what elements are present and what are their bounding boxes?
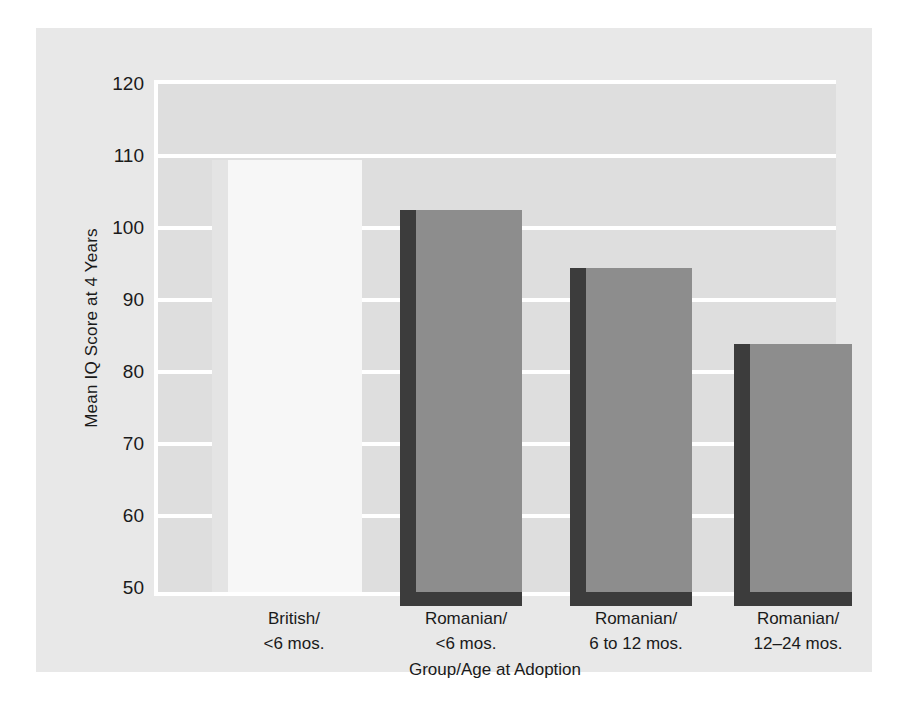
bar-side-face <box>212 160 228 592</box>
bar-side-face <box>400 210 416 592</box>
bar-base-shadow <box>400 592 522 606</box>
bar-british-under-6-months[interactable] <box>228 160 362 592</box>
x-axis-title: Group/Age at Adoption <box>154 660 836 680</box>
x-category-line-2: <6 mos. <box>194 631 394 656</box>
bar-front-face <box>750 344 852 592</box>
bar-base-shadow <box>734 592 852 606</box>
bar-front-face <box>586 268 692 592</box>
y-tick-label: 110 <box>84 145 144 167</box>
bar-romanian-12-to-24-months[interactable] <box>750 344 852 592</box>
x-category-label-british-under-6: British/ <6 mos. <box>194 606 394 656</box>
bar-front-face <box>228 160 362 592</box>
bar-side-face <box>734 344 750 592</box>
y-tick-label: 70 <box>84 433 144 455</box>
chart-panel: Mean IQ Score at 4 Years 120 110 100 90 … <box>36 28 872 672</box>
bar-romanian-6-to-12-months[interactable] <box>586 268 692 592</box>
y-tick-label: 120 <box>84 73 144 95</box>
y-tick-label: 60 <box>84 505 144 527</box>
gridline-110 <box>158 154 836 158</box>
bar-side-face <box>570 268 586 592</box>
bar-front-face <box>416 210 522 592</box>
y-axis-tick-labels: 120 110 100 90 80 70 60 50 <box>76 80 144 596</box>
x-axis-category-labels: British/ <6 mos. Romanian/ <6 mos. Roman… <box>154 606 836 662</box>
y-tick-label: 50 <box>84 577 144 599</box>
bar-base-shadow <box>570 592 692 606</box>
plot-inner <box>158 84 836 592</box>
x-category-line-1: Romanian/ <box>698 606 898 631</box>
y-tick-label: 90 <box>84 289 144 311</box>
y-tick-label: 100 <box>84 217 144 239</box>
x-category-label-romanian-12-to-24: Romanian/ 12–24 mos. <box>698 606 898 656</box>
x-category-line-1: British/ <box>194 606 394 631</box>
plot-area <box>154 80 836 596</box>
x-category-line-2: 12–24 mos. <box>698 631 898 656</box>
y-tick-label: 80 <box>84 361 144 383</box>
bar-romanian-under-6-months[interactable] <box>416 210 522 592</box>
chart-figure: Mean IQ Score at 4 Years 120 110 100 90 … <box>0 0 913 703</box>
